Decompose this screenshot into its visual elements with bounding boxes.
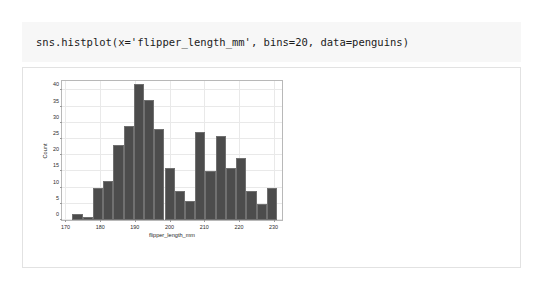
y-tick-mark xyxy=(60,106,62,107)
x-tick-label: 230 xyxy=(269,224,278,230)
histogram-bar xyxy=(72,214,82,220)
y-tick-label: 25 xyxy=(53,130,59,136)
y-tick-mark xyxy=(60,170,62,171)
histogram-bar xyxy=(267,188,277,220)
y-tick-label: 5 xyxy=(56,195,59,201)
x-tick-label: 220 xyxy=(234,224,243,230)
output-card: 0510152025303540 170180190200210220230 f… xyxy=(22,67,521,268)
y-tick-mark xyxy=(60,203,62,204)
histogram-bar xyxy=(103,181,113,220)
y-tick-mark xyxy=(60,219,62,220)
y-tick-mark xyxy=(60,187,62,188)
code-cell[interactable]: sns.histplot(x='flipper_length_mm', bins… xyxy=(22,22,521,62)
y-tick-mark xyxy=(60,89,62,90)
histogram-bar xyxy=(246,191,256,220)
x-tick-mark xyxy=(274,220,275,222)
y-tick-label: 35 xyxy=(53,98,59,104)
y-tick-label: 20 xyxy=(53,146,59,152)
x-tick-label: 180 xyxy=(96,224,105,230)
bars-layer xyxy=(62,81,282,220)
y-tick-mark xyxy=(60,122,62,123)
histogram-bar xyxy=(175,191,185,220)
x-tick-mark xyxy=(135,220,136,222)
histogram-bar xyxy=(144,100,154,220)
histogram-bar xyxy=(134,84,144,220)
y-tick-label: 15 xyxy=(53,162,59,168)
x-tick-mark xyxy=(65,220,66,222)
histogram-bar xyxy=(257,204,267,220)
y-axis-label: Count xyxy=(42,143,48,158)
histogram-bar xyxy=(185,201,195,220)
x-tick-label: 210 xyxy=(200,224,209,230)
plot-axes: 0510152025303540 170180190200210220230 f… xyxy=(61,80,283,221)
histogram-bar xyxy=(205,171,215,220)
y-tick-mark xyxy=(60,138,62,139)
x-tick-mark xyxy=(100,220,101,222)
x-tick-label: 200 xyxy=(165,224,174,230)
histogram-figure: 0510152025303540 170180190200210220230 f… xyxy=(28,71,328,261)
x-tick-label: 190 xyxy=(130,224,139,230)
y-tick-label: 40 xyxy=(53,81,59,87)
x-tick-label: 170 xyxy=(61,224,70,230)
histogram-bar xyxy=(226,168,236,220)
x-tick-mark xyxy=(204,220,205,222)
histogram-bar xyxy=(113,145,123,220)
code-cell-text: sns.histplot(x='flipper_length_mm', bins… xyxy=(36,36,409,48)
x-tick-mark xyxy=(170,220,171,222)
histogram-bar xyxy=(216,136,226,220)
histogram-bar xyxy=(93,188,103,220)
y-tick-mark xyxy=(60,154,62,155)
y-tick-label: 0 xyxy=(56,211,59,217)
histogram-bar xyxy=(83,217,93,220)
histogram-bar xyxy=(154,129,164,220)
histogram-bar xyxy=(165,168,175,220)
histogram-bar xyxy=(124,126,134,220)
y-tick-label: 10 xyxy=(53,179,59,185)
histogram-bar xyxy=(195,132,205,220)
y-tick-label: 30 xyxy=(53,114,59,120)
x-tick-mark xyxy=(239,220,240,222)
histogram-bar xyxy=(236,158,246,220)
x-axis-label: flipper_length_mm xyxy=(149,232,195,238)
